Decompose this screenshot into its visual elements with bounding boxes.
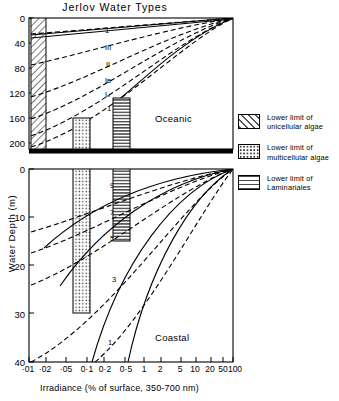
multicellular-algae-bar-top bbox=[73, 118, 90, 149]
multicellular-algae-bar-bottom bbox=[73, 169, 90, 313]
horizontal-lines-swatch bbox=[238, 175, 260, 190]
dotted-swatch bbox=[238, 144, 260, 159]
curve-oceanic-III bbox=[31, 18, 233, 65]
legend: Lower limit of unicellular algae Lower l… bbox=[238, 113, 339, 204]
coastal-curves bbox=[31, 169, 233, 362]
legend-multicellular-line2: multicellular algae bbox=[267, 153, 329, 162]
oceanic-bar-tops bbox=[73, 98, 130, 149]
legend-unicellular-line2: unicellular algae bbox=[267, 122, 323, 131]
coastal-bars bbox=[73, 169, 130, 313]
legend-laminariales-line1: Lower limit of bbox=[267, 174, 313, 183]
legend-laminariales-line2: Laminariales bbox=[267, 183, 313, 192]
curve-coastal-solid-b bbox=[128, 169, 233, 362]
curve-oceanic-I bbox=[31, 18, 233, 147]
oceanic-curves bbox=[31, 18, 233, 147]
legend-item-multicellular-text: Lower limit of multicellular algae bbox=[267, 143, 329, 161]
coastal-y-ticks bbox=[29, 169, 34, 362]
legend-unicellular-line1: Lower limit of bbox=[267, 113, 323, 122]
x-axis-ticks bbox=[29, 357, 233, 362]
figure-container: Jerlov Water Types Water Depth (m) Irrad… bbox=[0, 0, 339, 401]
legend-item-unicellular: Lower limit of unicellular algae bbox=[238, 113, 339, 131]
laminariales-bar-bottom bbox=[113, 169, 130, 241]
oceanic-panel-frame bbox=[29, 18, 233, 149]
curve-coastal-7 bbox=[31, 169, 233, 253]
curve-coastal-5 bbox=[31, 169, 233, 285]
diagonal-hatch-swatch bbox=[238, 114, 260, 129]
curve-oceanic-top-solid-b bbox=[31, 19, 233, 38]
legend-item-laminariales-text: Lower limit of Laminariales bbox=[267, 174, 313, 192]
legend-multicellular-line1: Lower limit of bbox=[267, 143, 329, 152]
legend-item-multicellular: Lower limit of multicellular algae bbox=[238, 143, 339, 161]
legend-item-unicellular-text: Lower limit of unicellular algae bbox=[267, 113, 323, 131]
laminariales-bar-top bbox=[113, 98, 130, 149]
legend-item-laminariales: Lower limit of Laminariales bbox=[238, 174, 339, 192]
panel-separator bbox=[29, 149, 233, 154]
